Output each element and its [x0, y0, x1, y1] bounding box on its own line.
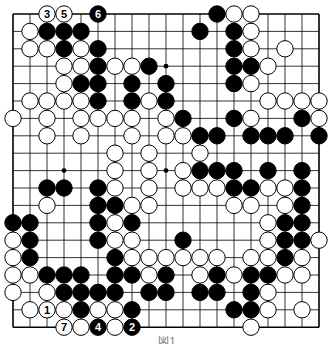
move-number: 3: [44, 8, 50, 20]
black-stone: [90, 197, 106, 213]
black-stone: [226, 162, 242, 178]
white-stone: [175, 249, 191, 265]
black-stone: [175, 110, 191, 126]
star-point: [164, 64, 169, 69]
white-stone: [73, 128, 89, 144]
black-stone: [124, 75, 140, 91]
black-stone: [22, 215, 38, 231]
black-stone: [56, 267, 72, 283]
white-stone: [226, 267, 242, 283]
black-stone: [56, 41, 72, 57]
white-stone: [73, 93, 89, 109]
white-stone: [226, 197, 242, 213]
black-stone: [226, 75, 242, 91]
black-stone: [226, 58, 242, 74]
black-stone: [192, 162, 208, 178]
black-stone: [73, 302, 89, 318]
move-number: 5: [61, 8, 67, 20]
white-stone: [124, 232, 140, 248]
white-stone: [107, 145, 123, 161]
white-stone: [141, 180, 157, 196]
white-stone: [260, 58, 276, 74]
black-stone: [243, 128, 259, 144]
white-stone: [294, 267, 310, 283]
white-stone: [22, 41, 38, 57]
white-stone: [5, 110, 21, 126]
white-stone: [243, 41, 259, 57]
white-stone: [175, 180, 191, 196]
white-stone: [5, 284, 21, 300]
black-stone: [311, 128, 327, 144]
white-stone: [56, 302, 72, 318]
black-stone: [158, 267, 174, 283]
white-stone: [39, 93, 55, 109]
white-stone: [141, 93, 157, 109]
black-stone: [226, 41, 242, 57]
black-stone: [90, 284, 106, 300]
white-stone: [175, 162, 191, 178]
black-stone: [39, 267, 55, 283]
black-stone: [73, 267, 89, 283]
white-stone: [107, 232, 123, 248]
white-stone: [277, 180, 293, 196]
white-stone: [192, 249, 208, 265]
white-stone: [141, 249, 157, 265]
black-stone: [294, 197, 310, 213]
black-stone: [209, 267, 225, 283]
black-stone: [22, 232, 38, 248]
white-stone: [311, 232, 327, 248]
white-stone: [107, 110, 123, 126]
black-stone: [192, 128, 208, 144]
white-stone: [243, 319, 259, 335]
black-stone: [158, 284, 174, 300]
black-stone: [73, 75, 89, 91]
white-stone: [39, 197, 55, 213]
black-stone: [39, 180, 55, 196]
white-stone: [311, 110, 327, 126]
black-stone: [90, 58, 106, 74]
white-stone: [39, 110, 55, 126]
white-stone: [39, 41, 55, 57]
white-stone: [158, 110, 174, 126]
white-stone: [209, 249, 225, 265]
black-stone: [209, 128, 225, 144]
white-stone: [73, 110, 89, 126]
white-stone: [243, 197, 259, 213]
white-stone: [260, 93, 276, 109]
black-stone: [277, 232, 293, 248]
white-stone: [73, 58, 89, 74]
black-stone: [294, 162, 310, 178]
move-7-white-stone: 7: [56, 319, 72, 335]
black-stone: [158, 93, 174, 109]
white-stone: [124, 249, 140, 265]
black-stone: [260, 267, 276, 283]
black-stone: [90, 75, 106, 91]
black-stone: [294, 180, 310, 196]
white-stone: [107, 215, 123, 231]
white-stone: [294, 302, 310, 318]
black-stone: [277, 249, 293, 265]
black-stone: [124, 215, 140, 231]
move-5-white-stone: 5: [56, 6, 72, 22]
white-stone: [124, 128, 140, 144]
white-stone: [39, 128, 55, 144]
black-stone: [243, 180, 259, 196]
black-stone: [107, 284, 123, 300]
black-stone: [226, 180, 242, 196]
black-stone: [90, 180, 106, 196]
move-3-white-stone: 3: [39, 6, 55, 22]
white-stone: [260, 284, 276, 300]
white-stone: [73, 41, 89, 57]
white-stone: [5, 232, 21, 248]
white-stone: [209, 180, 225, 196]
black-stone: [294, 110, 310, 126]
black-stone: [56, 23, 72, 39]
go-board: 6423517: [0, 0, 334, 344]
white-stone: [260, 180, 276, 196]
black-stone: [175, 232, 191, 248]
black-stone: [90, 215, 106, 231]
white-stone: [124, 110, 140, 126]
white-stone: [56, 58, 72, 74]
black-stone: [124, 267, 140, 283]
move-6-black-stone: 6: [90, 6, 106, 22]
